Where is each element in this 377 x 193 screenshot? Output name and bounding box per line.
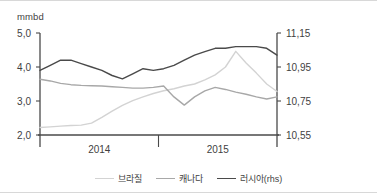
legend-label-russia: 러시아(rhs) [240, 172, 283, 185]
x-axis-category-label: 2015 [207, 144, 230, 155]
left-axis-tick-label: 2,0 [17, 130, 31, 141]
chart-figure: mmbd 5,04,03,02,011,1510,9510,7510,55201… [0, 0, 377, 193]
legend-swatch-canada [156, 178, 175, 179]
right-axis-tick-label: 10,95 [286, 62, 311, 73]
legend-swatch-russia [217, 178, 236, 179]
legend-label-brazil: 브라질 [118, 172, 142, 185]
right-axis-tick-label: 10,75 [286, 96, 311, 107]
right-axis-tick-label: 11,15 [286, 28, 311, 39]
legend-item-brazil[interactable]: 브라질 [95, 172, 142, 185]
legend-item-canada[interactable]: 캐나다 [156, 172, 203, 185]
x-axis-category-label: 2014 [88, 144, 111, 155]
left-axis-tick-label: 3,0 [17, 96, 31, 107]
left-axis-tick-label: 4,0 [17, 62, 31, 73]
series-line-브라질 [40, 51, 277, 127]
legend-item-russia[interactable]: 러시아(rhs) [217, 172, 283, 185]
legend-swatch-brazil [95, 178, 114, 179]
left-axis-tick-label: 5,0 [17, 28, 31, 39]
legend-label-canada: 캐나다 [179, 172, 203, 185]
right-axis-tick-label: 10,55 [286, 130, 311, 141]
series-line-러시아(rhs) [40, 47, 277, 79]
line-chart-plot: 5,04,03,02,011,1510,9510,7510,5520142015 [0, 1, 377, 193]
chart-legend: 브라질 캐나다 러시아(rhs) [0, 172, 377, 185]
